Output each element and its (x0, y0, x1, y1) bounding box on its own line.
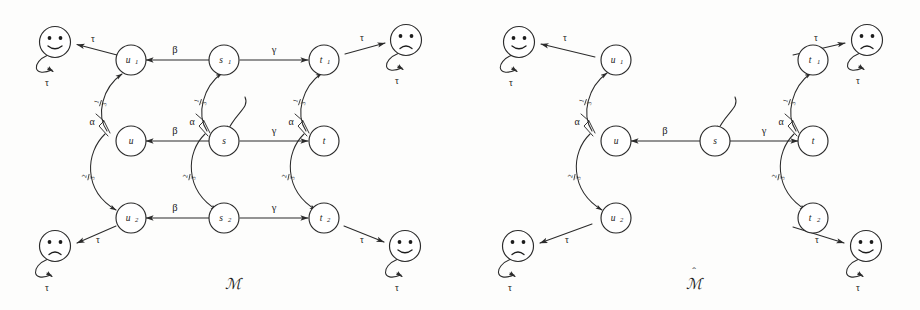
prob-frac-u-up: 1 3 (577, 97, 593, 108)
face-eye-left (511, 240, 515, 244)
edge-label-tau-top-right: τ (814, 33, 818, 43)
face-eye-left (512, 36, 516, 40)
edge-label-gamma-top: γ (271, 44, 277, 55)
edge-label-beta-bottom: β (172, 202, 177, 213)
svg-text:3: 3 (189, 175, 197, 180)
svg-text:1: 1 (192, 98, 200, 103)
node-label: u (611, 55, 616, 65)
alpha-label-t: α (288, 116, 294, 127)
face-self-loop-label: τ (856, 76, 860, 86)
prob-frac-u-up: 1 3 (92, 98, 108, 109)
face-top-left: τ (500, 27, 534, 89)
node-label: u (611, 213, 616, 223)
face-self-loop-label: τ (45, 78, 49, 88)
face-eye-right (409, 240, 413, 244)
face-self-loop-label: τ (508, 283, 512, 293)
face-eye-left (398, 240, 402, 244)
node-s1: s 1 (209, 45, 239, 75)
node-t: t (798, 126, 828, 156)
node-label: t (809, 55, 812, 65)
face-bottom-right: τ (846, 231, 881, 294)
edge-u-to-u2-prob (576, 134, 602, 210)
node-label: t (809, 213, 812, 223)
svg-text:1: 1 (577, 98, 585, 103)
face-eye-right (59, 240, 63, 244)
svg-text:3: 3 (299, 100, 307, 106)
face-head-circle (852, 25, 883, 56)
face-head-circle (503, 231, 534, 262)
face-bottom-left: τ (35, 231, 70, 294)
svg-text:1: 1 (781, 98, 789, 103)
svg-text:3: 3 (585, 100, 593, 106)
svg-text:3: 3 (574, 175, 582, 180)
node-label: u (614, 136, 619, 146)
node-t: t (309, 126, 339, 156)
svg-text:3: 3 (789, 100, 797, 106)
face-self-loop-label: τ (395, 76, 399, 86)
edge-u1-to-face-top-left (77, 45, 117, 56)
alpha-label-u: α (574, 116, 580, 127)
face-eye-right (522, 240, 526, 244)
face-self-loop-label: τ (856, 283, 860, 293)
node-sublabel: 1 (620, 58, 623, 65)
edge-label-tau-bottom-left: τ (565, 235, 569, 245)
panel-Mhat: τ τ τ τ τ τ (498, 25, 882, 294)
node-u: u (116, 126, 146, 156)
svg-text:3: 3 (88, 175, 96, 180)
edge-t1-to-face-top-right (345, 43, 385, 54)
node-sublabel: 1 (135, 58, 138, 65)
svg-text:2: 2 (80, 174, 88, 179)
edge-u-to-u2-prob (91, 134, 116, 210)
node-u2: u 2 (601, 203, 631, 233)
node-label: t (320, 55, 323, 65)
edge-label-tau-top-right: τ (360, 33, 364, 43)
edge-label-beta-mid: β (172, 125, 177, 136)
node-label: u (126, 213, 131, 223)
face-eye-left (48, 240, 52, 244)
node-t1: t 1 (798, 45, 828, 75)
svg-text:2: 2 (566, 174, 574, 179)
face-self-loop-label: τ (395, 283, 399, 293)
face-head-circle (851, 231, 882, 262)
diagram-svg: τ τ τ τ τ τ (0, 0, 920, 310)
node-label: u (126, 55, 131, 65)
node-sublabel: 1 (817, 58, 820, 65)
node-t2: t 2 (798, 203, 828, 233)
face-eye-left (859, 240, 863, 244)
svg-text:2: 2 (181, 174, 189, 179)
edge-label-tau-bottom-right: τ (815, 235, 819, 245)
prob-frac-s-down: 2 3 (181, 172, 197, 181)
face-bottom-left: τ (498, 231, 533, 294)
prob-frac-u-down: 2 3 (566, 172, 582, 181)
alpha-label-s: α (189, 116, 195, 127)
edge-label-tau-top-left: τ (91, 34, 95, 44)
svg-text:3: 3 (288, 175, 296, 180)
face-head-circle (390, 231, 421, 262)
alpha-label-u: α (89, 116, 95, 127)
face-self-loop-label: τ (45, 283, 49, 293)
face-head-circle (40, 231, 71, 262)
edge-label-tau-top-left: τ (563, 33, 567, 43)
node-s: s (700, 126, 730, 156)
node-label: t (323, 136, 326, 146)
face-eye-right (410, 34, 414, 38)
face-eye-right (523, 36, 527, 40)
figure-canvas: τ τ τ τ τ τ (0, 0, 920, 310)
edge-u1-to-face-top-left (541, 44, 595, 57)
face-head-circle (40, 27, 71, 58)
prob-frac-t-down: 2 3 (280, 172, 296, 181)
edge-label-tau-bottom-right: τ (360, 235, 364, 245)
node-t1: t 1 (309, 45, 339, 75)
edge-label-beta-top: β (172, 44, 177, 55)
face-bottom-right: τ (385, 231, 420, 294)
edge-label-gamma-mid: γ (271, 125, 277, 136)
node-s2: s 2 (209, 203, 239, 233)
node-u1: u 1 (116, 45, 146, 75)
node-label: s (219, 55, 223, 65)
edge-label-beta: β (662, 125, 667, 136)
node-label: s (713, 136, 717, 146)
face-eye-right (870, 240, 874, 244)
face-head-circle (504, 27, 535, 58)
node-label: t (320, 213, 323, 223)
face-top-right: τ (386, 25, 421, 87)
